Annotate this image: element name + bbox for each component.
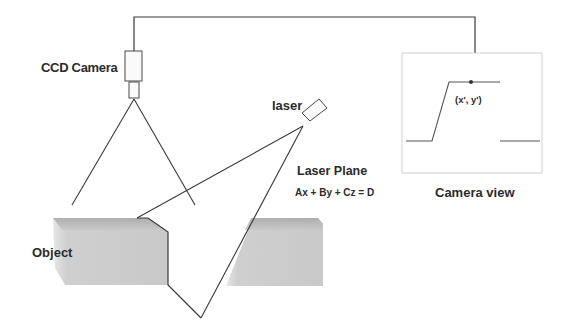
laser-plane-label: Laser Plane [297,164,367,178]
camera-view-label: Camera view [435,185,515,200]
image-point-marker [469,80,473,84]
object-right-top-shade [245,218,323,230]
laser-label: laser [272,98,302,113]
plane-equation-label: Ax + By + Cz = D [295,187,374,198]
image-point-label: (x', y') [455,94,482,105]
object-left-top-shade [53,218,166,230]
ccd-camera-label: CCD Camera [41,60,119,75]
camera-fov-right [134,99,195,205]
camera-fov-left [72,99,134,205]
object-label: Object [32,245,73,260]
laser-triangulation-diagram: CCD Camera laser Laser Plane Ax + By + C… [0,0,568,336]
laser-device-icon [302,99,327,121]
diagram-svg: CCD Camera laser Laser Plane Ax + By + C… [0,0,568,336]
ccd-camera-icon [125,51,142,98]
camera-cable [134,17,475,53]
object-block [53,218,323,286]
camera-view-panel [402,53,542,173]
